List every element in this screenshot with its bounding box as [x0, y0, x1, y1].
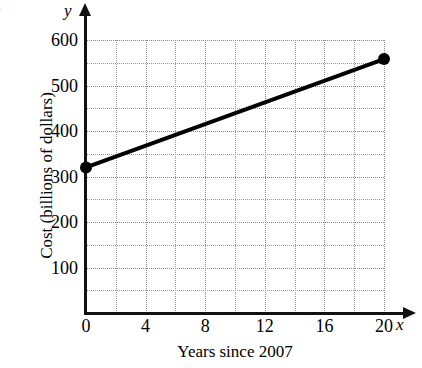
y-axis-arrow-icon	[79, 3, 91, 16]
x-tick-label: 8	[185, 317, 225, 335]
x-tick-label: 0	[66, 317, 106, 335]
x-tick-label: 12	[245, 317, 285, 335]
gridline-vertical-major	[265, 40, 266, 313]
gridline-vertical-minor	[116, 40, 117, 313]
x-axis-line	[84, 312, 406, 315]
gridline-vertical-minor	[295, 40, 296, 313]
y-axis-title: Cost (billions of dollars)	[38, 51, 55, 301]
x-axis-title: Years since 2007	[86, 343, 384, 360]
chart-figure: ) y x 100200300400500600 048121620 Cost …	[0, 0, 422, 368]
gridline-vertical-major	[146, 40, 147, 313]
x-tick-label: 20	[364, 317, 404, 335]
gridline-vertical-major	[384, 40, 385, 313]
x-tick-label: 4	[126, 317, 166, 335]
plot-area	[86, 40, 384, 313]
gridline-vertical-minor	[235, 40, 236, 313]
y-tick-label: 600	[34, 31, 78, 49]
problem-label: )	[0, 0, 1, 18]
gridline-vertical-minor	[354, 40, 355, 313]
x-axis-arrow-icon	[403, 307, 416, 319]
x-tick-label: 16	[304, 317, 344, 335]
y-axis-line	[84, 14, 87, 315]
gridline-vertical-major	[205, 40, 206, 313]
gridline-vertical-major	[324, 40, 325, 313]
gridline-vertical-minor	[175, 40, 176, 313]
